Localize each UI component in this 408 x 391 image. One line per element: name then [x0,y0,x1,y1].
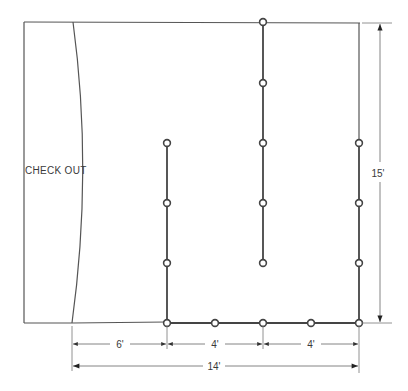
dimension-label-6ft: 6' [116,339,124,350]
post-icon [164,140,171,147]
post-icon [260,260,267,267]
dimension-label-4ft-a: 4' [211,339,219,350]
post-icon [164,200,171,207]
post-icon [356,140,363,147]
dimension-label-15ft: 15' [371,168,384,179]
post-icon [356,260,363,267]
post-icon [260,200,267,207]
post-icon [260,320,267,327]
post-icon [260,80,267,87]
post-icon [356,320,363,327]
checkout-label: CHECK OUT [25,165,87,176]
dimension-label-14ft: 14' [207,361,220,372]
post-icon [164,260,171,267]
post-icon [308,320,315,327]
post-icon [260,140,267,147]
dimension-label-4ft-b: 4' [307,339,315,350]
post-icon [260,19,267,26]
post-icon [164,320,171,327]
extension-lines [72,23,392,373]
queue-layout-diagram: CHECK OUT [0,0,408,391]
post-icon [356,200,363,207]
post-icon [212,320,219,327]
